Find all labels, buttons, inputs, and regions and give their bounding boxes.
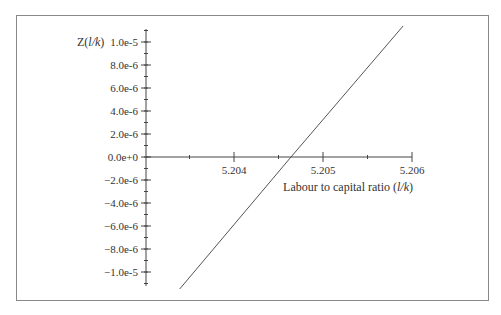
- y-tick-label: −4.0e-6: [104, 197, 138, 209]
- chart-frame: [17, 16, 489, 301]
- y-tick-label: 0.0e+0: [108, 151, 139, 163]
- y-axis: 1.0e-58.0e-66.0e-64.0e-62.0e-60.0e+0−2.0…: [104, 29, 151, 286]
- chart-container: 1.0e-58.0e-66.0e-64.0e-62.0e-60.0e+0−2.0…: [0, 0, 501, 315]
- y-tick-label: 1.0e-5: [110, 36, 138, 48]
- y-tick-label: 2.0e-6: [110, 128, 138, 140]
- y-tick-label: −1.0e-5: [104, 266, 138, 278]
- x-tick-label: 5.206: [400, 164, 425, 176]
- y-tick-label: 4.0e-6: [110, 105, 138, 117]
- y-tick-label: 6.0e-6: [110, 82, 138, 94]
- x-axis-label: Labour to capital ratio (l/k): [283, 180, 413, 194]
- y-tick-label: −6.0e-6: [104, 220, 138, 232]
- y-tick-label: 8.0e-6: [110, 59, 138, 71]
- y-tick-label: −8.0e-6: [104, 243, 138, 255]
- x-tick-label: 5.205: [311, 164, 336, 176]
- x-tick-label: 5.204: [222, 164, 247, 176]
- y-tick-label: −2.0e-6: [104, 174, 138, 186]
- y-axis-label: Z(l/k): [77, 35, 104, 49]
- line-chart: 1.0e-58.0e-66.0e-64.0e-62.0e-60.0e+0−2.0…: [0, 0, 501, 315]
